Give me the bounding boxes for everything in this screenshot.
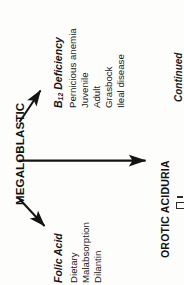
list-item-juvenile: Juvenile <box>80 72 90 108</box>
diagram-canvas: MEGALOBLASTIC B12 Deficiency Pernicious … <box>0 0 184 285</box>
flowchart-arrows <box>0 0 184 285</box>
list-item-adult: Adult <box>92 86 102 108</box>
branch-label-b12-deficiency: B12 Deficiency <box>53 37 65 108</box>
list-item-malabsorption: Malabsorption <box>81 222 91 283</box>
continued-note: Continued <box>174 53 184 102</box>
list-item-grasbock: Grasbock <box>104 67 114 108</box>
b12-deficiency-word: Deficiency <box>52 37 64 90</box>
root-node-megaloblastic: MEGALOBLASTIC <box>15 103 27 205</box>
list-item-dietary: Dietary <box>69 252 79 283</box>
scan-artifact-mark <box>177 196 183 198</box>
scan-artifact-box <box>176 202 184 209</box>
list-item-pernicious-anemia: Pernicious anemia <box>68 28 78 108</box>
b12-subscript: 12 <box>57 93 64 101</box>
branch-label-folic-acid: Folic Acid <box>53 233 64 283</box>
list-item-dilantin: Dilantin <box>93 251 103 283</box>
b12-letter: B <box>52 100 64 108</box>
terminal-node-orotic-aciduria: OROTIC ACIDURIA <box>160 160 171 258</box>
list-item-ileal-disease: Ileal disease <box>116 54 126 108</box>
